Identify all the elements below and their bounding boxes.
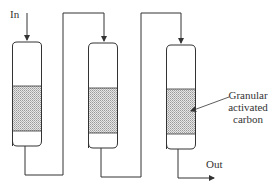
media-bed-2 [89, 88, 118, 133]
inlet-label: In [10, 8, 19, 20]
gac-label: Granular activated carbon [222, 89, 274, 125]
gac-label-line-3: carbon [222, 113, 274, 125]
gac-label-line-2: activated [222, 101, 274, 113]
media-bed-1 [13, 86, 42, 131]
column-3 [167, 45, 196, 149]
media-bed-3 [167, 89, 196, 134]
column-2 [89, 43, 118, 148]
gac-label-line-1: Granular [222, 89, 274, 101]
outlet-label: Out [206, 158, 223, 170]
column-1 [13, 42, 42, 146]
